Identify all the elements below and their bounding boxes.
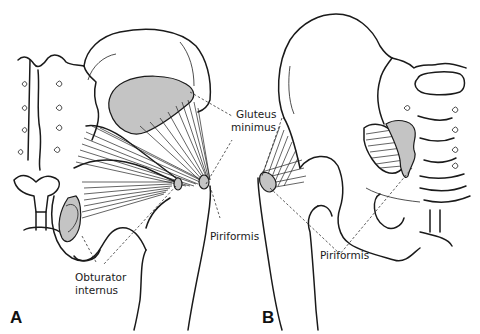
panel-a-drawing (14, 29, 232, 330)
panel-label-a: A (10, 308, 22, 328)
piriformis-fibers-a (74, 126, 202, 186)
obturator-insertion-a (174, 178, 182, 190)
label-obturator-internus-line2: internus (75, 284, 118, 296)
panel-label-b: B (262, 308, 274, 328)
label-piriformis-a: Piriformis (210, 230, 259, 242)
panel-b-drawing (258, 14, 470, 330)
obturator-internus-fibers-a (82, 182, 172, 218)
label-gluteus-minimus-line1: Gluteus (236, 108, 276, 120)
label-obturator-internus-line1: Obturator (75, 271, 126, 283)
ilium-b (279, 14, 392, 118)
femur-a (134, 250, 146, 330)
anatomy-figure: Gluteus minimus Piriformis Obturator int… (0, 0, 480, 334)
label-piriformis-b: Piriformis (320, 249, 369, 261)
gluteus-minimus-a (109, 76, 194, 134)
label-gluteus-minimus-line2: minimus (231, 121, 276, 133)
